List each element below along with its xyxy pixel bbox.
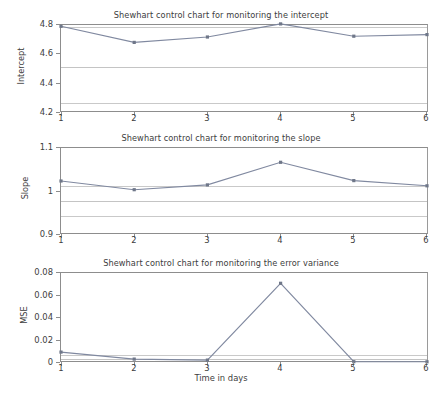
data-point-marker xyxy=(59,351,62,354)
y-tick-label: 0.04 xyxy=(14,312,53,322)
y-tick-mark xyxy=(56,147,60,148)
y-tick-label: 1 xyxy=(20,186,53,196)
data-point-marker xyxy=(133,188,136,191)
y-tick-mark xyxy=(56,53,60,54)
data-point-marker xyxy=(133,358,136,361)
x-tick-label: 2 xyxy=(124,113,144,123)
data-point-marker xyxy=(206,35,209,38)
x-tick-label: 3 xyxy=(197,235,217,245)
y-tick-label: 4.2 xyxy=(20,107,53,117)
x-tick-label: 6 xyxy=(416,363,436,373)
x-tick-label: 1 xyxy=(51,363,71,373)
y-tick-label: 0.02 xyxy=(14,335,53,345)
y-tick-label: 4.8 xyxy=(20,19,53,29)
y-tick-label: 0.9 xyxy=(20,229,53,239)
y-tick-mark xyxy=(56,295,60,296)
x-tick-label: 4 xyxy=(270,363,290,373)
data-point-marker xyxy=(425,33,428,36)
data-point-marker xyxy=(279,22,282,25)
data-point-marker xyxy=(279,161,282,164)
x-tick-label: 1 xyxy=(51,235,71,245)
data-point-marker xyxy=(425,184,428,187)
data-point-marker xyxy=(59,179,62,182)
x-tick-label: 4 xyxy=(270,113,290,123)
y-tick-label: 0.08 xyxy=(14,267,53,277)
y-tick-label: 4.6 xyxy=(20,48,53,58)
x-tick-label: 5 xyxy=(343,235,363,245)
y-tick-mark xyxy=(56,317,60,318)
x-tick-label: 3 xyxy=(197,363,217,373)
y-tick-mark xyxy=(56,272,60,273)
x-tick-label: 4 xyxy=(270,235,290,245)
data-point-marker xyxy=(352,179,355,182)
chart-panel-error-variance: Shewhart control chart for monitoring th… xyxy=(0,250,442,399)
x-tick-label: 5 xyxy=(343,113,363,123)
y-tick-mark xyxy=(56,83,60,84)
y-tick-label: 0 xyxy=(14,357,53,367)
y-tick-label: 4.4 xyxy=(20,78,53,88)
x-tick-label: 6 xyxy=(416,235,436,245)
x-tick-label: 6 xyxy=(416,113,436,123)
data-point-marker xyxy=(352,35,355,38)
x-axis-label: Time in days xyxy=(0,373,442,383)
y-tick-label: 0.06 xyxy=(14,290,53,300)
chart-panel-intercept: Shewhart control chart for monitoring th… xyxy=(0,0,442,125)
y-tick-mark xyxy=(56,191,60,192)
series-line-intercept xyxy=(0,0,442,125)
data-point-marker xyxy=(206,183,209,186)
chart-panel-slope: Shewhart control chart for monitoring th… xyxy=(0,125,442,250)
series-line-slope xyxy=(0,125,442,250)
data-point-marker xyxy=(279,282,282,285)
x-tick-label: 2 xyxy=(124,235,144,245)
data-point-marker xyxy=(133,41,136,44)
x-tick-label: 3 xyxy=(197,113,217,123)
y-tick-mark xyxy=(56,24,60,25)
y-tick-label: 1.1 xyxy=(20,142,53,152)
x-tick-label: 5 xyxy=(343,363,363,373)
data-point-marker xyxy=(59,25,62,28)
x-tick-label: 1 xyxy=(51,113,71,123)
x-tick-label: 2 xyxy=(124,363,144,373)
y-tick-mark xyxy=(56,340,60,341)
